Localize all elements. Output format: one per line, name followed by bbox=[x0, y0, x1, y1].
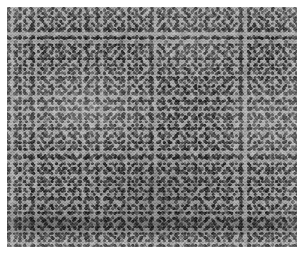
micrograph-image bbox=[7, 7, 297, 247]
figure-root bbox=[0, 0, 307, 255]
tissue-base-layer bbox=[7, 7, 297, 247]
